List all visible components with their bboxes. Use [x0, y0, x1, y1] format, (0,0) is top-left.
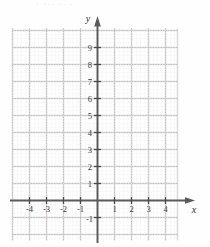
x-tick-label: -1: [77, 204, 84, 214]
coordinate-plane-svg: 9 8 7 6 5 4 3 2 1 -1 -4 -3 -2 -1 1 2 3 4: [0, 0, 210, 247]
x-axis-arrowhead-icon: [185, 197, 195, 204]
x-tick-label: -3: [43, 204, 50, 214]
x-tick-label: -2: [60, 204, 67, 214]
y-axis-label: y: [85, 13, 91, 24]
y-tick-label: 3: [88, 145, 92, 155]
x-tick-label: 2: [129, 204, 133, 214]
coordinate-plane: 9 8 7 6 5 4 3 2 1 -1 -4 -3 -2 -1 1 2 3 4: [0, 0, 210, 247]
y-tick-label-negative-one: -1: [86, 214, 93, 224]
y-tick-label: 6: [88, 94, 92, 104]
x-tick-label: 3: [146, 204, 150, 214]
y-tick-label: 1: [88, 179, 92, 189]
y-tick-label: 5: [88, 111, 92, 121]
y-tick-label: 8: [88, 60, 92, 70]
y-tick-label: 9: [88, 43, 92, 53]
x-tick-label: 1: [112, 204, 116, 214]
y-axis-arrowhead-icon: [94, 16, 101, 27]
y-tick-label: 2: [88, 162, 92, 172]
x-tick-label: -4: [26, 204, 34, 214]
grid-group: [13, 29, 178, 241]
minor-grid: [13, 29, 178, 241]
graph-screenshot: · ··· ·· ·: [0, 0, 210, 247]
x-axis-label: x: [191, 204, 197, 215]
y-tick-label: 7: [88, 77, 92, 87]
